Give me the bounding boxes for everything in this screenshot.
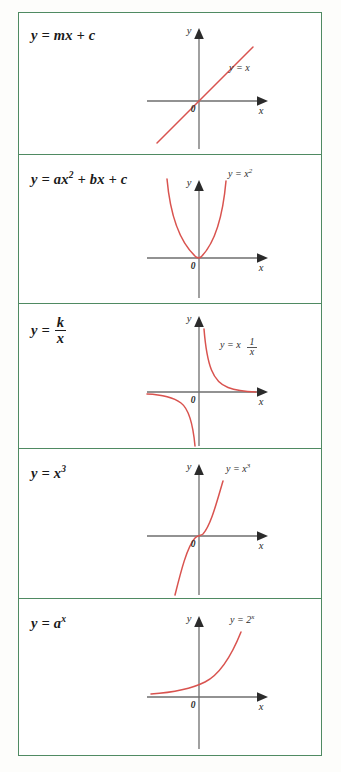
equation-label-linear: y = mx + c [31, 27, 95, 44]
curve-label-fraction-reciprocal: 1 x [247, 336, 257, 357]
equation-body: mx + c [54, 27, 96, 43]
graph-cubic: y x 0 y = x3 [125, 449, 315, 598]
origin-label: 0 [191, 539, 196, 549]
equation-label-cubic: y = x3 [31, 463, 66, 482]
curve-label-exponential: y = 2x [229, 613, 255, 625]
y-axis-arrow-icon [194, 616, 204, 627]
curve-label-cubic: y = x3 [225, 462, 251, 474]
table-row: y = x3 y x 0 y = x3 [19, 449, 321, 599]
graph-linear: y x 0 y = x [125, 13, 315, 154]
fraction-k-over-x: kx [55, 315, 66, 346]
curve-label-linear: y = x [228, 62, 250, 73]
curve-label-quadratic: y = x2 [227, 167, 253, 179]
equation-exponent: x [61, 613, 66, 624]
y-axis-label: y [186, 461, 192, 472]
curve-reciprocal-branch-2 [147, 394, 195, 446]
table-row: y = ax2 + bx + c y x 0 y = x2 [19, 155, 321, 304]
equation-lhs: y = [31, 171, 54, 187]
fraction-denominator: x [55, 331, 66, 346]
graph-svg-quadratic: y x 0 y = x2 [125, 155, 315, 304]
equation-body-2: + bx + c [74, 171, 128, 187]
graph-svg-reciprocal: y x 0 y = x 1 x [125, 304, 315, 449]
page-background: y = mx + c y x 0 y = x [0, 0, 341, 772]
origin-label: 0 [191, 104, 196, 114]
origin-label: 0 [191, 261, 196, 271]
equation-lhs: y = [31, 322, 54, 338]
equation-lhs: y = [31, 615, 54, 631]
graph-exponential: y x 0 y = 2x [125, 599, 315, 753]
equation-label-quadratic: y = ax2 + bx + c [31, 169, 127, 188]
curve-label-reciprocal: y = x [219, 339, 241, 350]
equation-body: ax [54, 171, 69, 187]
table-row: y = ax y x 0 y = 2x [19, 599, 321, 753]
x-axis-label: x [258, 396, 264, 407]
y-axis-label: y [186, 25, 192, 36]
graph-svg-linear: y x 0 y = x [125, 13, 315, 155]
graph-svg-cubic: y x 0 y = x3 [125, 449, 315, 599]
y-axis-arrow-icon [194, 28, 204, 39]
graph-quadratic: y x 0 y = x2 [125, 155, 315, 303]
x-axis-label: x [258, 262, 264, 273]
y-axis-label: y [186, 613, 192, 624]
origin-label: 0 [191, 700, 196, 710]
graph-svg-exponential: y x 0 y = 2x [125, 599, 315, 753]
y-axis-arrow-icon [194, 180, 204, 191]
equation-exponent: 3 [61, 463, 66, 474]
table-row: y = mx + c y x 0 y = x [19, 13, 321, 155]
y-axis-arrow-icon [194, 464, 204, 475]
x-axis-label: x [258, 701, 264, 712]
equation-label-exponential: y = ax [31, 613, 66, 632]
table-row: y = kx y x 0 y = x [19, 304, 321, 449]
curve-label-denominator: x [249, 346, 255, 357]
curve-exponential [151, 632, 241, 694]
equation-label-reciprocal: y = kx [31, 316, 67, 347]
origin-label: 0 [191, 395, 196, 405]
y-axis-arrow-icon [194, 316, 204, 327]
equation-lhs: y = [31, 27, 54, 43]
y-axis-label: y [186, 313, 192, 324]
x-axis-label: x [258, 105, 264, 116]
y-axis-label: y [186, 177, 192, 188]
graph-reciprocal: y x 0 y = x 1 x [125, 304, 315, 448]
equation-lhs: y = [31, 465, 54, 481]
x-axis-label: x [258, 540, 264, 551]
graph-reference-table: y = mx + c y x 0 y = x [18, 12, 322, 756]
fraction-numerator: k [55, 315, 66, 331]
